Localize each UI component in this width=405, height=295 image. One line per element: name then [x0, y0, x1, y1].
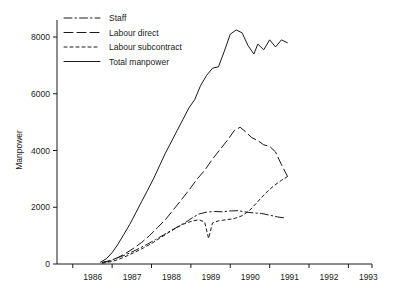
legend-label: Labour subcontract: [109, 42, 182, 52]
y-tick-label: 6000: [31, 89, 50, 99]
series-line-staff: [102, 211, 285, 263]
series-line-labour-direct: [102, 127, 287, 263]
x-axis-tick-labels: 19861987198819891990199119921993: [83, 272, 378, 282]
y-axis-tick-labels: 02000400060008000: [31, 32, 50, 269]
axes: [53, 20, 372, 268]
x-tick-label: 1990: [241, 272, 260, 282]
y-axis-ticks: [53, 37, 57, 264]
chart-svg: 02000400060008000 1986198719881989199019…: [0, 0, 405, 295]
manpower-line-chart: 02000400060008000 1986198719881989199019…: [0, 0, 405, 295]
x-tick-label: 1987: [123, 272, 142, 282]
x-tick-label: 1986: [83, 272, 102, 282]
x-tick-label: 1988: [162, 272, 181, 282]
x-tick-label: 1991: [280, 272, 299, 282]
x-tick-label: 1989: [201, 272, 220, 282]
x-tick-label: 1993: [359, 272, 378, 282]
x-axis-ticks: [73, 264, 372, 268]
legend-label: Total manpower: [109, 57, 169, 67]
y-axis-title: Manpower: [14, 130, 24, 170]
legend-label: Staff: [109, 13, 127, 23]
legend-label: Labour direct: [109, 28, 159, 38]
chart-legend: StaffLabour directLabour subcontractTota…: [64, 13, 182, 66]
y-tick-label: 0: [45, 259, 50, 269]
y-tick-label: 2000: [31, 202, 50, 212]
y-tick-label: 4000: [31, 146, 50, 156]
x-tick-label: 1992: [320, 272, 339, 282]
y-tick-label: 8000: [31, 32, 50, 42]
